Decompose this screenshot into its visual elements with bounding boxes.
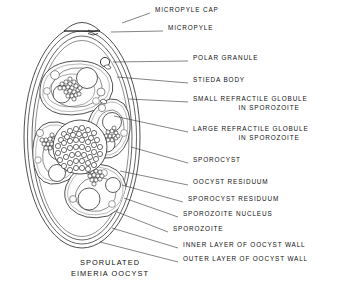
label-oocyst-residuum: OOCYST RESIDUUM — [193, 178, 268, 187]
label-sporocyst: SPOROCYST — [193, 156, 241, 165]
label-large-refractile-globule: LARGE REFRACTILE GLOBULE IN SPOROZOITE — [193, 125, 353, 142]
label-text: SPOROZOITE — [173, 225, 223, 232]
caption-line-1: SPORULATED — [40, 258, 180, 269]
stieda-body-shape — [104, 65, 111, 69]
sporozoite-nucleus-shape — [44, 88, 51, 95]
label-polar-granule: POLAR GRANULE — [193, 54, 258, 63]
label-micropyle: MICROPYLE — [168, 24, 213, 33]
label-text: POLAR GRANULE — [193, 54, 258, 61]
label-sporocyst-residuum: SPOROCYST RESIDUUM — [188, 195, 279, 204]
label-text: SPOROZOITE NUCLEUS — [183, 210, 273, 217]
large-refractile-globule-shape — [77, 68, 98, 89]
sporozoite-nucleus-shape — [109, 201, 116, 208]
label-text: MICROPYLE — [168, 24, 213, 31]
small-refractile-globule-shape — [98, 104, 105, 111]
label-text-line2: IN SPOROZOITE — [193, 134, 345, 143]
label-inner-layer-oocyst-wall: INNER LAYER OF OOCYST WALL — [183, 241, 305, 250]
label-outer-layer-oocyst-wall: OUTER LAYER OF OOCYST WALL — [183, 255, 308, 264]
label-text: SPOROCYST RESIDUUM — [188, 195, 279, 202]
label-text: LARGE REFRACTILE GLOBULE — [193, 125, 309, 132]
label-sporozoite: SPOROZOITE — [173, 225, 223, 234]
label-sporozoite-nucleus: SPOROZOITE NUCLEUS — [183, 210, 273, 219]
small-refractile-globule-shape — [97, 88, 105, 96]
label-text: SPOROCYST — [193, 156, 241, 163]
caption-line-2: EIMERIA OOCYST — [40, 269, 180, 280]
label-small-refractile-globule: SMALL REFRACTILE GLOBULE IN SPOROZOITE — [193, 95, 353, 112]
large-refractile-globule-shape — [106, 178, 121, 193]
label-text: OOCYST RESIDUUM — [193, 178, 268, 185]
sporozoite-nucleus-shape — [35, 157, 41, 163]
small-refractile-globule-shape — [51, 71, 60, 80]
sporozoite-nucleus-shape — [121, 130, 128, 137]
label-text-line2: IN SPOROZOITE — [193, 104, 345, 113]
label-stieda-body: STIEDA BODY — [193, 76, 245, 85]
large-refractile-globule-shape — [78, 188, 100, 210]
label-text: STIEDA BODY — [193, 76, 245, 83]
small-refractile-globule-shape — [70, 196, 77, 203]
oocyst-residuum-shape — [53, 120, 107, 174]
figure-caption: SPORULATED EIMERIA OOCYST — [40, 258, 180, 279]
label-micropyle-cap: MICROPYLE CAP — [155, 6, 219, 15]
label-text: INNER LAYER OF OOCYST WALL — [183, 241, 305, 248]
label-text: SMALL REFRACTILE GLOBULE — [193, 95, 308, 102]
sporozoite-nucleus-shape — [93, 98, 100, 105]
micropyle-cap-shape — [64, 23, 100, 32]
small-refractile-globule-shape — [36, 129, 43, 136]
label-text: MICROPYLE CAP — [155, 6, 219, 13]
label-text: OUTER LAYER OF OOCYST WALL — [183, 255, 308, 262]
eimeria-oocyst-figure — [0, 0, 360, 297]
